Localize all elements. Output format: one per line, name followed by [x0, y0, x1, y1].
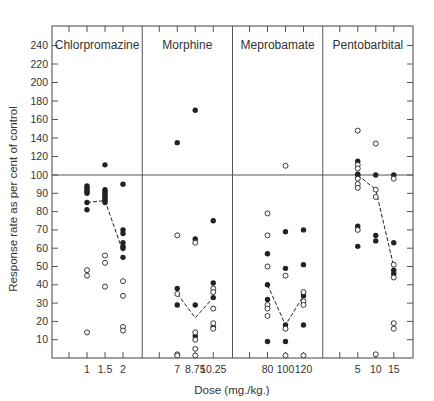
- filled-data-point: [211, 280, 216, 285]
- y-tick-label: 30: [36, 297, 48, 309]
- open-data-point: [283, 273, 288, 278]
- dose-tick-label: 10: [370, 363, 382, 375]
- open-data-point: [373, 187, 378, 192]
- open-data-point: [283, 163, 288, 168]
- filled-data-point: [120, 231, 125, 236]
- panel-title: Chlorpromazine: [55, 38, 140, 52]
- open-data-point: [85, 268, 90, 273]
- open-data-point: [265, 306, 270, 311]
- y-tick-label: 90: [36, 187, 48, 199]
- y-tick-label: 160: [30, 113, 48, 125]
- open-data-point: [103, 284, 108, 289]
- panel-title: Meprobamate: [241, 38, 315, 52]
- chart-canvas: 1020304050607080901001201401601802002202…: [0, 0, 434, 401]
- open-data-point: [373, 194, 378, 199]
- filled-data-point: [283, 266, 288, 271]
- open-data-point: [193, 330, 198, 335]
- filled-data-point: [265, 339, 270, 344]
- open-data-point: [265, 313, 270, 318]
- filled-data-point: [355, 244, 360, 249]
- open-data-point: [301, 290, 306, 295]
- open-data-point: [85, 330, 90, 335]
- filled-data-point: [373, 233, 378, 238]
- x-axis-title: Dose (mg./kg.): [194, 384, 270, 396]
- filled-data-point: [373, 172, 378, 177]
- y-tick-label: 220: [30, 58, 48, 70]
- panel-pentobarbital: Pentobarbital51015: [323, 26, 403, 375]
- open-data-point: [265, 264, 270, 269]
- y-tick-label: 80: [36, 205, 48, 217]
- dose-tick-label: 80: [262, 363, 274, 375]
- filled-data-point: [84, 191, 89, 196]
- open-data-point: [175, 353, 180, 358]
- open-data-point: [193, 240, 198, 245]
- y-tick-label: 200: [30, 76, 48, 88]
- dose-tick-label: 1.5: [98, 363, 113, 375]
- open-data-point: [391, 326, 396, 331]
- open-data-point: [211, 290, 216, 295]
- y-tick-label: 140: [30, 132, 48, 144]
- y-tick-label: 70: [36, 223, 48, 235]
- filled-data-point: [301, 322, 306, 327]
- dose-tick-label: 15: [388, 363, 400, 375]
- open-data-point: [391, 176, 396, 181]
- filled-data-point: [175, 302, 180, 307]
- filled-data-point: [193, 302, 198, 307]
- filled-data-point: [102, 200, 107, 205]
- filled-data-point: [193, 108, 198, 113]
- filled-data-point: [373, 238, 378, 243]
- open-data-point: [211, 326, 216, 331]
- open-data-point: [391, 262, 396, 267]
- open-data-point: [355, 227, 360, 232]
- open-data-point: [103, 260, 108, 265]
- open-data-point: [301, 353, 306, 358]
- y-tick-label: 100: [30, 169, 48, 181]
- open-data-point: [265, 233, 270, 238]
- dose-tick-label: 1: [84, 363, 90, 375]
- filled-data-point: [391, 240, 396, 245]
- open-data-point: [193, 337, 198, 342]
- open-data-point: [193, 353, 198, 358]
- panel-morphine: Morphine78.7510.25: [142, 26, 226, 375]
- filled-data-point: [84, 207, 89, 212]
- drug-panels: Chlorpromazine11.52Morphine78.7510.25Mep…: [55, 26, 403, 375]
- y-tick-label: 120: [30, 150, 48, 162]
- filled-data-point: [265, 297, 270, 302]
- y-tick-label: 50: [36, 260, 48, 272]
- open-data-point: [355, 185, 360, 190]
- open-data-point: [283, 353, 288, 358]
- filled-data-point: [84, 200, 89, 205]
- y-tick-label: 10: [36, 333, 48, 345]
- open-data-point: [391, 275, 396, 280]
- filled-data-point: [175, 140, 180, 145]
- filled-data-point: [265, 282, 270, 287]
- y-tick-label: 240: [30, 39, 48, 51]
- open-data-point: [283, 326, 288, 331]
- open-data-point: [175, 233, 180, 238]
- panel-chlorpromazine: Chlorpromazine11.52: [55, 26, 140, 375]
- filled-data-point: [301, 227, 306, 232]
- dose-response-chart: 1020304050607080901001201401601802002202…: [0, 0, 434, 401]
- filled-data-point: [120, 255, 125, 260]
- dose-tick-label: 5: [355, 363, 361, 375]
- open-data-point: [121, 279, 126, 284]
- filled-data-point: [120, 246, 125, 251]
- y-tick-label: 20: [36, 315, 48, 327]
- dose-tick-label: 7: [174, 363, 180, 375]
- open-data-point: [85, 273, 90, 278]
- y-tick-label: 60: [36, 242, 48, 254]
- open-data-point: [355, 176, 360, 181]
- open-data-point: [211, 306, 216, 311]
- open-data-point: [103, 253, 108, 258]
- median-line: [268, 285, 304, 325]
- filled-data-point: [120, 181, 125, 186]
- dose-tick-label: 100: [277, 363, 295, 375]
- filled-data-point: [211, 218, 216, 223]
- dose-tick-label: 2: [120, 363, 126, 375]
- open-data-point: [211, 321, 216, 326]
- open-data-point: [121, 328, 126, 333]
- y-tick-label: 40: [36, 278, 48, 290]
- open-data-point: [355, 166, 360, 171]
- open-data-point: [373, 352, 378, 357]
- filled-data-point: [175, 286, 180, 291]
